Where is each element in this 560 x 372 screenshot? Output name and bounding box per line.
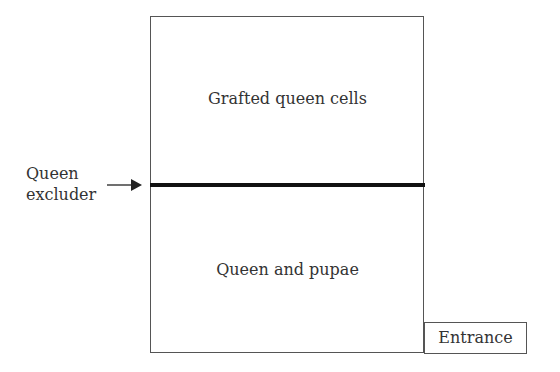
upper-chamber-label: Grafted queen cells — [150, 89, 425, 108]
excluder-label-line1: Queen — [26, 163, 96, 184]
excluder-label: Queen excluder — [26, 163, 96, 205]
excluder-label-line2: excluder — [26, 184, 96, 205]
arrow-right-icon — [107, 178, 143, 192]
queen-excluder-line — [150, 183, 425, 187]
entrance-box: Entrance — [424, 322, 527, 354]
lower-chamber-label: Queen and pupae — [150, 260, 425, 279]
